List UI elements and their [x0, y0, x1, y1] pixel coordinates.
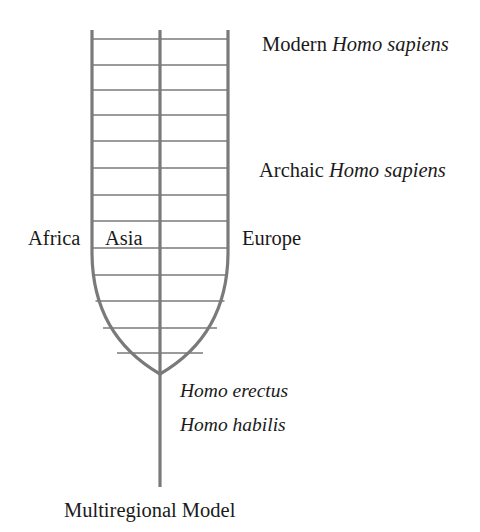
evolution-tree-diagram [0, 0, 480, 532]
region-label-asia: Asia [105, 228, 143, 249]
label-archaic-genus-species: Homo sapiens [329, 159, 446, 181]
label-archaic-prefix: Archaic [259, 159, 324, 181]
lineage-line-europe [160, 30, 228, 374]
region-label-europe: Europe [242, 228, 301, 249]
label-homo-habilis: Homo habilis [180, 415, 286, 435]
label-archaic-homo-sapiens: Archaic Homo sapiens [259, 160, 446, 181]
region-label-africa: Africa [28, 228, 80, 249]
figure-caption: Multiregional Model [64, 500, 235, 521]
label-homo-erectus: Homo erectus [180, 381, 288, 401]
multiregional-model-figure: Modern Homo sapiens Archaic Homo sapiens… [0, 0, 480, 532]
label-modern-genus-species: Homo sapiens [332, 33, 449, 55]
label-modern-homo-sapiens: Modern Homo sapiens [262, 34, 449, 55]
lineage-line-africa [92, 30, 160, 374]
label-modern-prefix: Modern [262, 33, 327, 55]
